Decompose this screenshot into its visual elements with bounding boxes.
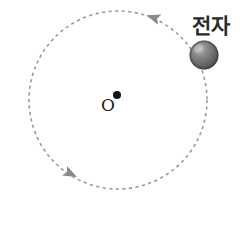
physics-orbit-diagram: O 전자 [0,0,246,231]
center-point-label: O [101,95,115,115]
diagram-canvas: O 전자 [0,0,246,231]
electron-label: 전자 [192,14,231,38]
electron-sphere [190,41,219,70]
orbit-circle [29,11,207,189]
orbit-arrow-top [145,10,162,25]
orbit-arrow-bottom-left [62,166,79,182]
